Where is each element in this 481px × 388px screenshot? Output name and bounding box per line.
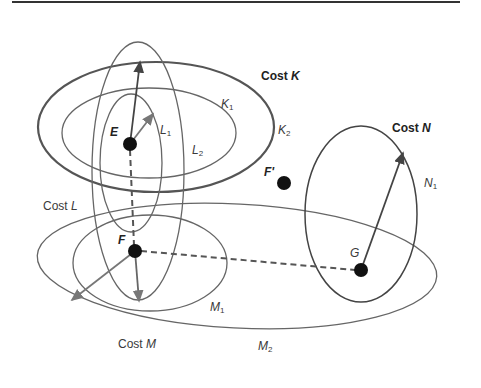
node-label-e: E <box>110 126 118 138</box>
label-cost-k: Cost K <box>261 70 300 82</box>
dashed-link-f-g <box>141 251 355 270</box>
node-label-g: G <box>350 247 359 259</box>
label-l2: L2 <box>192 144 203 158</box>
label-cost-m: Cost M <box>118 338 156 350</box>
arrow-from-g-4 <box>361 153 403 270</box>
label-m2: M2 <box>258 340 272 354</box>
label-cost-l: Cost L <box>43 200 78 212</box>
label-k2: K2 <box>278 124 290 138</box>
node-label-f: F <box>118 234 125 246</box>
dashed-link-e-f <box>130 150 134 245</box>
cost-contour-diagram <box>0 0 481 388</box>
node-label-f-prime: F' <box>264 166 274 178</box>
arrow-from-f-2 <box>135 251 139 301</box>
label-m1: M1 <box>210 301 224 315</box>
label-k1: K1 <box>221 98 233 112</box>
node-g <box>354 263 368 277</box>
contour-k2 <box>38 62 274 192</box>
label-l1: L1 <box>160 124 171 138</box>
contour-m1 <box>73 215 227 311</box>
node-e <box>123 137 137 151</box>
contour-k1 <box>62 88 236 178</box>
label-n1: N1 <box>424 177 437 191</box>
node-f-prime <box>277 176 291 190</box>
node-f <box>128 244 142 258</box>
contour-m2 <box>34 194 440 339</box>
label-cost-n: Cost N <box>392 122 431 134</box>
